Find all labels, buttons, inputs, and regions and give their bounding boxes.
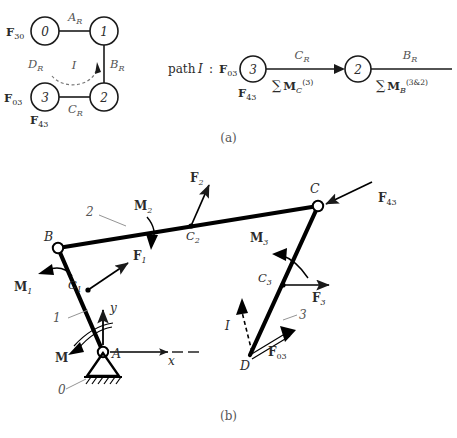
force-F03-arrowhead bbox=[280, 326, 296, 342]
moment-M3-arrowhead bbox=[272, 248, 287, 261]
point-label-D: D bbox=[239, 358, 250, 373]
axis-y-label: y bbox=[109, 301, 117, 315]
link-1-bar bbox=[58, 248, 103, 352]
path-node-2-label: 2 bbox=[353, 63, 362, 77]
force-F43-label: F43 bbox=[378, 191, 397, 207]
diagram-part-b: B C A D C1 C2 C3 1 2 3 0 F1 F2 F3 F43 F0… bbox=[0, 160, 457, 405]
force-F43-label: F43 bbox=[30, 113, 48, 129]
path-seg1-above-label: CR bbox=[295, 48, 310, 64]
path-colon: : bbox=[209, 62, 213, 76]
diagram-part-a: 0 1 2 3 AR BR CR DR I F30 F03 F43 path I… bbox=[0, 0, 457, 150]
link-2-label: 2 bbox=[85, 205, 94, 219]
link-3-leader bbox=[283, 315, 297, 320]
point-label-C2: C2 bbox=[186, 229, 200, 245]
path-prefix-text: path bbox=[168, 62, 196, 76]
path-segment-1-arrow bbox=[334, 64, 345, 74]
path-seg2-below-label: ∑MB(3&2) bbox=[376, 78, 428, 95]
force-F03-label: F03 bbox=[268, 345, 287, 361]
caption-b: (b) bbox=[0, 410, 457, 422]
caption-a: (a) bbox=[0, 132, 457, 144]
moment-M3-label: M3 bbox=[250, 231, 268, 247]
path-prefix-italic: I bbox=[197, 62, 203, 76]
edge-label-CR: CR bbox=[68, 102, 83, 118]
graph-node-0-label: 0 bbox=[41, 25, 49, 39]
axis-x-label: x bbox=[168, 354, 175, 368]
moment-M2-arrowhead bbox=[146, 234, 158, 250]
point-label-C1: C1 bbox=[68, 278, 82, 294]
force-F3-label: F3 bbox=[312, 291, 326, 307]
force-F2-label: F2 bbox=[190, 171, 204, 187]
point-label-C3: C3 bbox=[258, 271, 272, 287]
graph-node-1-label: 1 bbox=[100, 25, 108, 39]
path-under-force-F43: F43 bbox=[238, 86, 256, 102]
moment-M1-label: M1 bbox=[14, 280, 32, 296]
edge-label-BR: BR bbox=[109, 57, 124, 73]
point-label-C: C bbox=[310, 181, 320, 196]
path-node-3-label: 3 bbox=[249, 63, 257, 77]
point-label-A: A bbox=[111, 346, 121, 361]
force-F03-label: F03 bbox=[4, 91, 22, 107]
link-0-label: 0 bbox=[58, 383, 66, 397]
moment-M-label: M bbox=[55, 351, 68, 365]
loop-I-label-b: I bbox=[224, 319, 230, 333]
moment-M2-label: M2 bbox=[134, 199, 152, 215]
link-1-label: 1 bbox=[53, 311, 61, 325]
graph-node-2-label: 2 bbox=[99, 91, 108, 105]
graph-node-3-label: 3 bbox=[41, 91, 49, 105]
loop-label-I: I bbox=[71, 58, 77, 72]
loop-I-dashed-line bbox=[242, 312, 252, 352]
link-0-leader bbox=[66, 379, 86, 389]
moment-M1-arrowhead bbox=[38, 264, 54, 275]
force-F30-label: F30 bbox=[6, 25, 24, 41]
path-seg1-below-label: ∑MC(3) bbox=[272, 78, 313, 95]
loop-arrow-head bbox=[95, 62, 101, 74]
force-F2-arrow bbox=[191, 185, 209, 226]
figure-root: 0 1 2 3 AR BR CR DR I F30 F03 F43 path I… bbox=[0, 0, 457, 438]
path-seg2-above-label: BR bbox=[402, 48, 417, 64]
point-label-B: B bbox=[43, 229, 53, 244]
force-F1-arrow bbox=[88, 263, 128, 290]
edge-label-AR: AR bbox=[67, 10, 82, 26]
force-F43-arrow bbox=[326, 182, 372, 204]
link-3-label: 3 bbox=[299, 308, 307, 322]
path-start-force: F03 bbox=[219, 62, 237, 78]
force-F1-label: F1 bbox=[133, 249, 147, 265]
link-2-leader bbox=[99, 215, 126, 226]
loop-I-arrowhead bbox=[236, 298, 248, 315]
loop-arc-I bbox=[52, 71, 96, 85]
joint-C bbox=[313, 201, 323, 211]
edge-label-DR: DR bbox=[27, 57, 43, 73]
joint-B bbox=[53, 243, 63, 253]
